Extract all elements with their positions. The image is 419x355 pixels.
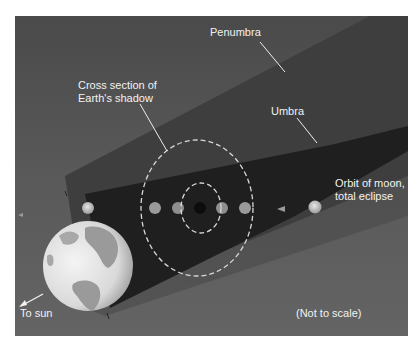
umbra-label: Umbra: [271, 105, 304, 118]
diagram-canvas: [15, 16, 408, 336]
penumbra-label: Penumbra: [210, 26, 261, 39]
cross-section-label: Cross section of Earth's shadow: [78, 79, 157, 105]
orbit-label: Orbit of moon, total eclipse: [335, 177, 405, 203]
not-to-scale-label: (Not to scale): [296, 307, 361, 320]
eclipse-diagram: Penumbra Cross section of Earth's shadow…: [15, 16, 408, 336]
moon-umbra-2: [172, 202, 184, 214]
moon-umbra-4: [239, 202, 251, 214]
moon-partial-1: [82, 202, 94, 214]
moon-totality: [194, 202, 206, 214]
moon-outside: [309, 201, 322, 214]
moon-umbra-3: [216, 202, 228, 214]
moon-umbra-1: [149, 202, 161, 214]
to-sun-label: To sun: [20, 307, 52, 320]
